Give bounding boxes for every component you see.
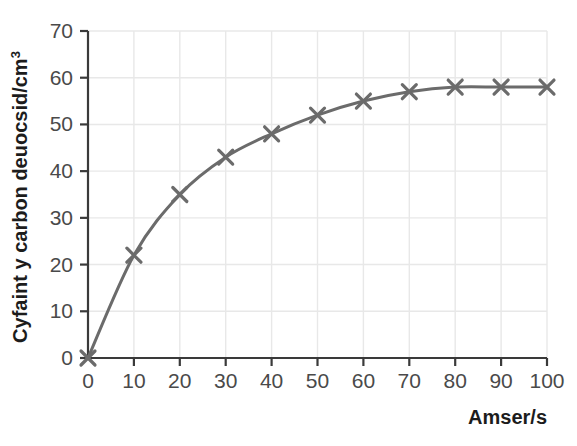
y-axis-tick-label: 50 [50,112,73,135]
x-axis-tick-label: 30 [214,369,237,392]
y-axis-tick-label: 10 [50,299,73,322]
x-axis-tick-label: 60 [352,369,375,392]
x-axis-tick-label: 100 [529,369,564,392]
line-chart: 0102030405060708090100 010203040506070 A… [0,0,577,446]
y-axis-tick-label: 0 [61,346,73,369]
x-axis-tick-label: 80 [444,369,467,392]
y-axis-title: Cyfaint y carbon deuocsid/cm3 [8,51,31,343]
x-axis-tick-label: 70 [398,369,421,392]
chart-container: 0102030405060708090100 010203040506070 A… [0,0,577,446]
x-axis-tick-label: 50 [306,369,329,392]
x-axis-tick-label: 0 [82,369,94,392]
y-axis-tick-label: 70 [50,19,73,42]
x-axis-tick-label: 90 [489,369,512,392]
y-axis-tick-label: 20 [50,253,73,276]
y-axis-tick-label: 40 [50,159,73,182]
x-axis-title: Amser/s [468,406,547,428]
x-axis-title-group: Amser/s [468,406,547,428]
y-axis-tick-label: 60 [50,66,73,89]
y-axis-title-group: Cyfaint y carbon deuocsid/cm3 [8,51,31,343]
y-axis-title-main: Cyfaint y carbon deuocsid/cm [9,58,31,343]
y-axis-title-superscript: 3 [8,51,23,58]
x-axis-tick-label: 10 [122,369,145,392]
x-axis-tick-label: 20 [168,369,191,392]
x-axis-tick-label: 40 [260,369,283,392]
y-axis-tick-label: 30 [50,206,73,229]
